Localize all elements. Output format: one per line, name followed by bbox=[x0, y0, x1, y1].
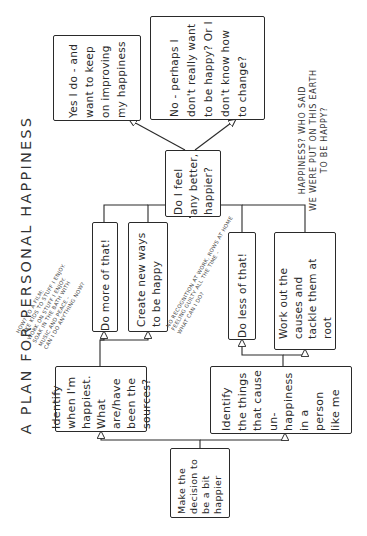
node-start-label: Make the decision to be a bit happier bbox=[176, 452, 224, 514]
quip-line: HAPPINESS? WHO SAID bbox=[297, 69, 308, 211]
node-do-more-label: Do more of that! bbox=[98, 223, 113, 331]
node-do-more: Do more of that! bbox=[92, 222, 118, 332]
page-title: A PLAN FOR PERSONAL HAPPINESS bbox=[18, 116, 34, 434]
node-check-label: Do I feel any better, happier? bbox=[171, 153, 216, 215]
node-yes: Yes I do - and want to keep on improving… bbox=[53, 35, 141, 121]
node-check: Do I feel any better, happier? bbox=[165, 150, 221, 217]
node-no-label: No - perhaps I don't really want to be h… bbox=[165, 19, 250, 117]
quip-line: TO BE HAPPY? bbox=[319, 69, 330, 211]
node-yes-label: Yes I do - and want to keep on improving… bbox=[65, 38, 129, 118]
node-create-new-label: Create new ways to be happy bbox=[134, 227, 163, 327]
quip-line: WE WERE PUT ON THIS EARTH bbox=[308, 69, 319, 211]
node-identify-unhappy-label: Identify the things that cause un-happin… bbox=[219, 369, 343, 431]
node-work-out-label: Work out the causes and tackle them at r… bbox=[276, 243, 334, 339]
node-identify-happy-label: Identify when I'm happiest. What are/hav… bbox=[49, 369, 154, 429]
node-do-less-label: Do less of that! bbox=[235, 234, 250, 338]
node-identify-happy: Identify when I'm happiest. What are/hav… bbox=[55, 366, 147, 432]
node-do-less: Do less of that! bbox=[228, 232, 256, 340]
node-no: No - perhaps I don't really want to be h… bbox=[150, 16, 265, 120]
happiness-quip: HAPPINESS? WHO SAID WE WERE PUT ON THIS … bbox=[297, 69, 330, 211]
happiness-plan-diagram: A PLAN FOR PERSONAL HAPPINESS Make the d… bbox=[0, 0, 367, 536]
node-identify-unhappy: Identify the things that cause un-happin… bbox=[210, 366, 352, 434]
node-work-out: Work out the causes and tackle them at r… bbox=[274, 232, 336, 350]
node-create-new: Create new ways to be happy bbox=[128, 222, 168, 332]
node-start: Make the decision to be a bit happier bbox=[170, 448, 230, 518]
